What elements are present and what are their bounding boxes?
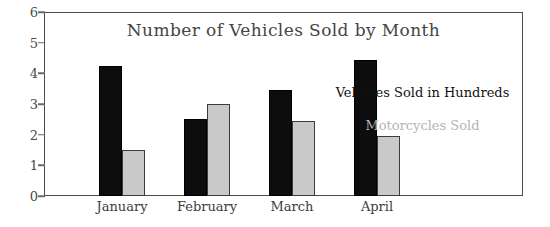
bar-february-series-2	[207, 104, 230, 196]
y-tick-label: 4	[16, 67, 38, 80]
y-tick-label: 6	[16, 6, 38, 19]
chart-legend: Vehicles Sold in Hundreds Motorcycles So…	[330, 86, 515, 132]
bar-march-series-2	[292, 121, 315, 196]
legend-entry-motorcycles-sold: Motorcycles Sold	[330, 119, 515, 132]
y-tick-label: 1	[16, 159, 38, 172]
bar-january-series-2	[122, 150, 145, 196]
bar-february-series-1	[184, 119, 207, 196]
bar-april-series-2	[377, 136, 400, 196]
y-tick-label: 0	[16, 190, 38, 203]
y-tick-label: 2	[16, 128, 38, 141]
x-tick-label-january: January	[96, 199, 147, 214]
bar-march-series-1	[269, 90, 292, 196]
legend-entry-vehicles-sold: Vehicles Sold in Hundreds	[330, 86, 515, 99]
x-tick-label-february: February	[177, 199, 237, 214]
bar-january-series-1	[99, 66, 122, 196]
y-tick-label: 5	[16, 36, 38, 49]
x-axis-labels: JanuaryFebruaryMarchApril	[44, 199, 523, 225]
x-tick-label-april: April	[361, 199, 393, 214]
y-axis-labels: 0123456	[8, 0, 38, 227]
chart-figure: Number of Vehicles Sold by Month 0123456…	[0, 0, 550, 227]
y-tick-label: 3	[16, 98, 38, 111]
x-tick-label-march: March	[271, 199, 314, 214]
